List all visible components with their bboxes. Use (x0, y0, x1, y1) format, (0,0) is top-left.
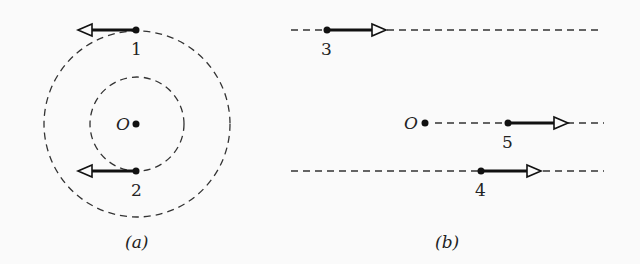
particle-1-arrow (78, 24, 140, 36)
particle-1-label: 1 (131, 39, 142, 59)
arrowhead-left-icon (78, 24, 92, 36)
arrowhead-right-icon (554, 117, 568, 129)
angular-momentum-diagram: O 1 2 (a) 3 O (0, 0, 640, 264)
caption-a: (a) (125, 232, 148, 252)
arrowhead-left-icon (78, 165, 92, 177)
origin-point-a (133, 121, 140, 128)
caption-b: (b) (435, 232, 459, 252)
panel-a: O 1 2 (a) (44, 24, 230, 252)
particle-2-arrow (78, 165, 140, 177)
arrowhead-right-icon (527, 165, 541, 177)
particle-4-arrow (478, 165, 542, 177)
particle-1-point (133, 27, 140, 34)
particle-5-label: 5 (502, 132, 513, 152)
particle-3-arrow (324, 24, 387, 36)
arrowhead-right-icon (372, 24, 386, 36)
panel-b: 3 O 5 4 (b) (291, 24, 604, 252)
particle-4-label: 4 (475, 180, 486, 200)
origin-point-b (422, 120, 429, 127)
particle-5-point (505, 120, 512, 127)
particle-3-point (324, 27, 331, 34)
particle-2-point (133, 168, 140, 175)
particle-2-label: 2 (131, 180, 142, 200)
origin-label-a: O (116, 114, 130, 134)
particle-3-label: 3 (321, 39, 332, 59)
particle-4-point (478, 168, 485, 175)
origin-label-b: O (404, 113, 418, 133)
particle-5-arrow (505, 117, 569, 129)
